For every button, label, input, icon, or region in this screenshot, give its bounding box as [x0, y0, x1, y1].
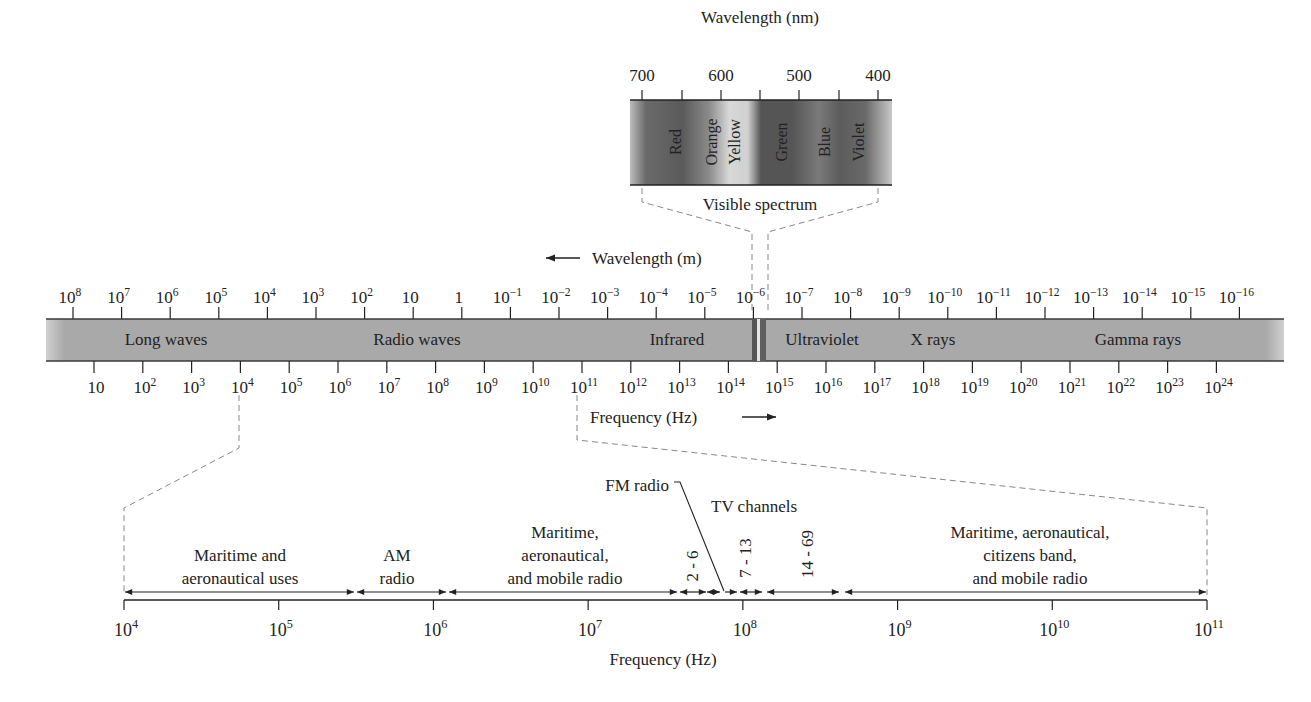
band-maritime-aero-line1: Maritime and: [194, 546, 287, 565]
tv-channels-2-6: 2 - 6: [683, 550, 702, 581]
visible-band-yellow: Yellow: [726, 119, 743, 165]
wavelength-tick-3: 105: [204, 286, 227, 307]
radio-frequency-title: Frequency (Hz): [609, 650, 716, 669]
visible-band-blue: Blue: [816, 127, 833, 157]
frequency-tick-17: 1018: [911, 376, 940, 397]
wavelength-tick-22: 10−14: [1122, 286, 1157, 307]
fm-radio-label: FM radio: [605, 476, 669, 495]
frequency-tick-16: 1017: [863, 376, 892, 397]
visible-tick-600: 600: [708, 66, 734, 85]
em-spectrum-diagram: Wavelength (nm) 700 600 500 400 Red Oran…: [0, 0, 1311, 702]
region-ultraviolet: Ultraviolet: [785, 330, 859, 349]
radio-tick-5: 109: [888, 617, 912, 640]
visible-marker-red: [752, 319, 757, 361]
visible-ticks: [642, 90, 878, 100]
radio-tick-0: 104: [114, 617, 138, 640]
frequency-tick-23: 1024: [1204, 376, 1233, 397]
visible-band-violet: Violet: [850, 122, 867, 162]
visible-tick-400: 400: [865, 66, 891, 85]
region-radio-waves: Radio waves: [373, 330, 460, 349]
wavelength-tick-10: 10−2: [541, 286, 571, 307]
frequency-tick-marks: [94, 361, 1216, 373]
frequency-tick-6: 107: [377, 376, 400, 397]
tv-channels-14-69: 14 - 69: [798, 530, 817, 578]
frequency-tick-13: 1014: [716, 376, 745, 397]
radio-detail: 10410510610710810910101011 Frequency (Hz…: [114, 476, 1224, 669]
band-am-line2: radio: [380, 569, 415, 588]
frequency-tick-1: 102: [133, 376, 156, 397]
wavelength-tick-marks: [73, 307, 1239, 319]
frequency-hz-title: Frequency (Hz): [590, 408, 697, 427]
band-maritime-aero-line2: aeronautical uses: [182, 569, 299, 588]
wavelength-tick-0: 108: [59, 286, 82, 307]
radio-tick-3: 107: [578, 617, 602, 640]
radio-tick-6: 1010: [1039, 617, 1069, 640]
wavelength-tick-4: 104: [253, 286, 276, 307]
radio-tick-marks: [124, 600, 1207, 610]
frequency-tick-19: 1020: [1009, 376, 1038, 397]
wavelength-tick-23: 10−15: [1170, 286, 1205, 307]
band-upper-line3: and mobile radio: [972, 569, 1087, 588]
wavelength-tick-24: 10−16: [1219, 286, 1254, 307]
wavelength-tick-16: 10−8: [833, 286, 863, 307]
frequency-tick-2: 103: [182, 376, 205, 397]
frequency-tick-8: 109: [475, 376, 498, 397]
frequency-tick-7: 108: [426, 376, 449, 397]
visible-marker-violet: [760, 319, 766, 361]
wavelength-tick-21: 10−13: [1073, 286, 1108, 307]
wavelength-tick-13: 10−5: [687, 286, 717, 307]
wavelength-tick-20: 10−12: [1024, 286, 1059, 307]
frequency-tick-22: 1023: [1155, 376, 1184, 397]
band-upper-line1: Maritime, aeronautical,: [950, 523, 1109, 542]
wavelength-tick-labels: 10810710610510410310210110−110−210−310−4…: [59, 286, 1255, 307]
visible-band-orange: Orange: [703, 118, 721, 165]
wavelength-tick-14: 10−6: [736, 286, 766, 307]
visible-band-red: Red: [667, 129, 684, 155]
frequency-tick-labels: 1010210310410510610710810910101011101210…: [88, 376, 1233, 397]
frequency-tick-10: 1011: [570, 376, 598, 397]
wavelength-tick-5: 103: [302, 286, 325, 307]
wavelength-tick-17: 10−9: [882, 286, 912, 307]
band-upper-line2: citizens band,: [983, 546, 1076, 565]
frequency-tick-5: 106: [329, 376, 352, 397]
frequency-tick-12: 1013: [667, 376, 696, 397]
radio-tick-labels: 10410510610710810910101011: [114, 617, 1224, 640]
frequency-tick-3: 104: [231, 376, 254, 397]
visible-marker-light: [757, 319, 760, 361]
wavelength-tick-1: 107: [107, 286, 130, 307]
wavelength-tick-11: 10−3: [590, 286, 620, 307]
visible-tick-700: 700: [629, 66, 655, 85]
band-maritime-mobile-line1: Maritime,: [531, 523, 599, 542]
region-x-rays: X rays: [911, 330, 956, 349]
frequency-tick-4: 105: [280, 376, 303, 397]
tv-channels-label: TV channels: [711, 497, 797, 516]
visible-band-green: Green: [773, 122, 790, 161]
wavelength-tick-7: 10: [402, 288, 419, 307]
region-long-waves: Long waves: [125, 330, 208, 349]
wavelength-tick-15: 10−7: [784, 286, 814, 307]
wavelength-tick-19: 10−11: [976, 286, 1011, 307]
region-gamma-rays: Gamma rays: [1095, 330, 1181, 349]
visible-wavelength-title: Wavelength (nm): [701, 8, 819, 27]
visible-spectrum-caption: Visible spectrum: [703, 195, 818, 214]
wavelength-tick-8: 1: [455, 288, 464, 307]
frequency-tick-0: 10: [88, 378, 105, 397]
wavelength-tick-9: 10−1: [493, 286, 523, 307]
frequency-tick-21: 1022: [1107, 376, 1136, 397]
band-maritime-mobile-line2: aeronautical,: [521, 546, 608, 565]
frequency-tick-9: 1010: [521, 376, 550, 397]
radio-tick-4: 108: [733, 617, 757, 640]
main-spectrum: Wavelength (m) 1081071061051041031021011…: [46, 249, 1284, 595]
wavelength-tick-2: 106: [156, 286, 179, 307]
tv-channels-7-13: 7 - 13: [736, 538, 755, 578]
visible-tick-500: 500: [786, 66, 812, 85]
wavelength-tick-12: 10−4: [639, 286, 669, 307]
frequency-tick-15: 1016: [814, 376, 843, 397]
region-infrared: Infrared: [650, 330, 705, 349]
radio-tick-2: 106: [423, 617, 447, 640]
wavelength-m-title: Wavelength (m): [592, 249, 702, 268]
frequency-tick-18: 1019: [960, 376, 989, 397]
radio-tick-1: 105: [269, 617, 293, 640]
band-maritime-mobile-line3: and mobile radio: [507, 569, 622, 588]
frequency-tick-11: 1012: [619, 376, 648, 397]
